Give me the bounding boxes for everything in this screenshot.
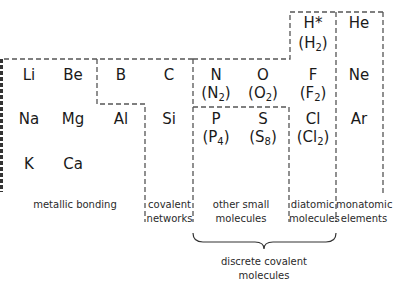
element-n: N <box>193 66 239 84</box>
molecule-o2: (O2) <box>238 84 288 102</box>
molecule-f2: (F2) <box>288 84 338 102</box>
element-cl: Cl <box>290 110 336 128</box>
molecule-cl2: (Cl2) <box>288 128 338 146</box>
element-ca: Ca <box>50 155 96 173</box>
molecule-n2: (N2) <box>191 84 241 102</box>
label-discrete-covalent-molecules: discrete covalentmolecules <box>204 255 324 283</box>
element-na: Na <box>6 110 52 128</box>
element-si: Si <box>146 110 192 128</box>
label-covalent-networks: covalentnetworks <box>146 198 193 226</box>
element-p: P <box>193 110 239 128</box>
element-c: C <box>146 66 192 84</box>
element-k: K <box>6 155 52 173</box>
label-diatomic-molecules: diatomicmolecules <box>289 198 336 226</box>
element-li: Li <box>6 66 52 84</box>
label-monatomic-elements: monatomicelements <box>336 198 392 226</box>
element-al: Al <box>98 110 144 128</box>
brace-icon <box>193 233 336 249</box>
label-metallic-bonding: metallic bonding <box>20 198 130 212</box>
element-be: Be <box>50 66 96 84</box>
label-other-small-molecules: other smallmolecules <box>193 198 289 226</box>
molecule-p4: (P4) <box>191 128 241 146</box>
molecule-s8: (S8) <box>238 128 288 146</box>
molecule-h2: (H2) <box>288 34 338 52</box>
element-f: F <box>290 66 336 84</box>
element-s: S <box>240 110 286 128</box>
element-o: O <box>240 66 286 84</box>
element-mg: Mg <box>50 110 96 128</box>
element-b: B <box>98 66 144 84</box>
element-ar: Ar <box>336 110 382 128</box>
element-ne: Ne <box>336 66 382 84</box>
element-h: H* <box>290 14 336 32</box>
element-he: He <box>336 14 382 32</box>
